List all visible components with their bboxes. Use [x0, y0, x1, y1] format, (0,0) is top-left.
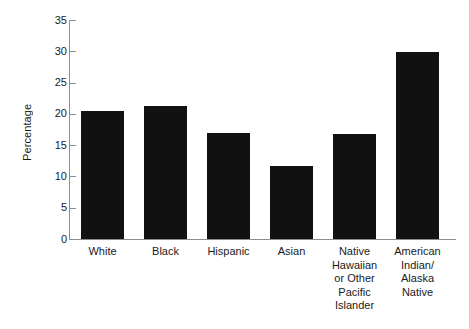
x-axis-tick-label: Black: [134, 245, 197, 259]
x-axis-tick-label-line: Alaska: [386, 272, 449, 286]
x-axis-tick-label-line: White: [71, 245, 134, 259]
x-axis-tick-label-line: American: [386, 245, 449, 259]
bar: [207, 133, 250, 239]
x-axis-tick-label: AmericanIndian/AlaskaNative: [386, 245, 449, 299]
x-axis-tick-label-line: or Other: [323, 272, 386, 286]
x-axis-tick-label-line: Asian: [260, 245, 323, 259]
x-axis-tick-label-line: Hispanic: [197, 245, 260, 259]
x-axis-tick-label: White: [71, 245, 134, 259]
bar: [144, 106, 187, 239]
x-axis-tick-label-line: Black: [134, 245, 197, 259]
bar: [396, 52, 439, 239]
x-axis-tick-label: Hispanic: [197, 245, 260, 259]
bar-chart-figure: Percentage 05101520253035 WhiteBlackHisp…: [0, 0, 469, 329]
x-axis-tick-label: NativeHawaiianor OtherPacificIslander: [323, 245, 386, 313]
x-axis-tick-label-line: Hawaiian: [323, 259, 386, 273]
x-axis-tick-label-line: Islander: [323, 299, 386, 313]
bar: [333, 134, 376, 239]
x-axis-tick-label-line: Native: [386, 286, 449, 300]
x-axis-tick-label-line: Pacific: [323, 286, 386, 300]
x-axis-tick-label-line: Indian/: [386, 259, 449, 273]
bar: [81, 111, 124, 239]
x-axis-tick-label: Asian: [260, 245, 323, 259]
bar: [270, 166, 313, 239]
x-axis-tick-label-line: Native: [323, 245, 386, 259]
